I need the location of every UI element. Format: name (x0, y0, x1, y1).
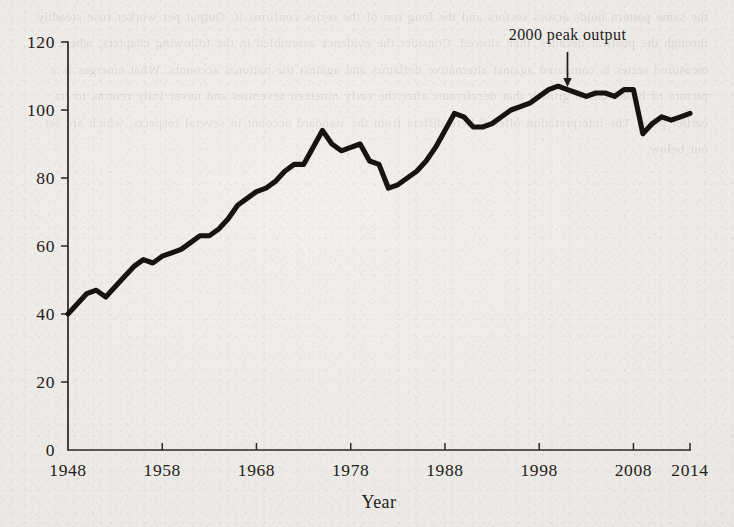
y-tick-label-20: 20 (0, 372, 55, 393)
y-tick-label-0: 0 (0, 440, 55, 461)
axis-lines (68, 42, 690, 450)
x-tick-label-1958: 1958 (144, 460, 181, 481)
x-tick-label-1998: 1998 (521, 460, 558, 481)
y-tick-label-100: 100 (0, 100, 55, 121)
annotation-arrow (563, 52, 571, 87)
annotation-arrow-head (563, 78, 571, 87)
y-tick-label-60: 60 (0, 236, 55, 257)
scanned-page: the same pattern holds across sectors an… (0, 0, 734, 527)
x-tick-label-2008: 2008 (615, 460, 652, 481)
axis-ticks (61, 42, 690, 450)
y-tick-label-40: 40 (0, 304, 55, 325)
x-axis-title: Year (362, 492, 397, 513)
y-tick-label-80: 80 (0, 168, 55, 189)
x-tick-label-2014: 2014 (671, 460, 708, 481)
annotation-label: 2000 peak output (509, 26, 627, 44)
x-tick-label-1948: 1948 (49, 460, 86, 481)
y-tick-label-120: 120 (0, 32, 55, 53)
line-chart (0, 0, 734, 527)
x-tick-label-1968: 1968 (238, 460, 275, 481)
x-tick-label-1988: 1988 (426, 460, 463, 481)
x-tick-label-1978: 1978 (332, 460, 369, 481)
output-series-line (68, 86, 690, 314)
chart-canvas (0, 0, 734, 527)
